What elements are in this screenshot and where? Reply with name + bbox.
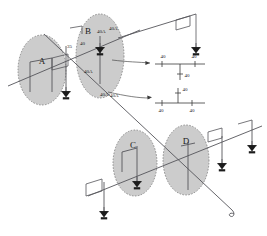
feeder-end-hook — [229, 210, 234, 217]
inset-bottom-label-left: 40 — [159, 108, 165, 113]
rating-label-2: 35 — [67, 44, 73, 49]
pole-top-right — [176, 14, 201, 55]
rating-label-0: 40A — [97, 29, 106, 34]
rating-label-5: 40A — [100, 92, 109, 97]
pole-bottom-left — [86, 179, 109, 219]
pole-far-right — [238, 120, 257, 153]
rating-label-3: 40 — [80, 41, 86, 46]
zone-label-d: D — [183, 136, 190, 146]
inset-detail-bottom: 40 40 40 — [155, 87, 205, 113]
diagram-canvas: 40 40 40 40 40 40 A B C D 40A — [0, 0, 267, 236]
inset-bottom-label-up: 40 — [183, 87, 189, 92]
rating-label-1: 40A — [109, 26, 118, 31]
callout-arrow-bottom — [147, 96, 152, 100]
inset-top-label-left: 40 — [161, 54, 167, 59]
rating-label-6: 40A — [110, 93, 119, 98]
inset-detail-top: 40 40 40 — [155, 54, 205, 80]
inset-bottom-label-right: 40 — [190, 108, 196, 113]
zone-label-c: C — [130, 140, 136, 150]
inset-top-label-down: 40 — [185, 73, 191, 78]
zone-ellipse-a — [18, 35, 66, 105]
inset-top-label-right: 40 — [192, 54, 198, 59]
callout-arrow-top — [145, 61, 150, 65]
zone-label-b: B — [85, 26, 91, 36]
pole-right-center — [208, 128, 227, 171]
rating-label-4: 40A — [84, 69, 93, 74]
zone-label-a: A — [39, 56, 46, 66]
